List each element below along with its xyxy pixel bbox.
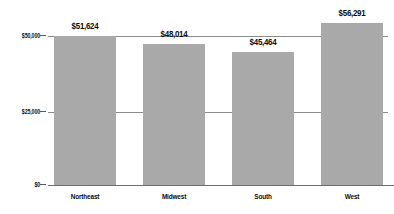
bar-west (321, 23, 383, 185)
axis-baseline (48, 185, 394, 186)
x-axis-label-midwest: Midwest (147, 192, 200, 201)
x-axis-label-west: West (325, 192, 378, 201)
bar-northeast (54, 36, 116, 185)
y-axis-tick-mark-0 (40, 184, 46, 185)
bar-midwest (143, 44, 205, 185)
bar-chart: $50,000 $25,000 $0 $51,624 $48,014 $45,4… (0, 0, 394, 214)
bar-south (232, 52, 294, 185)
plot-area: $51,624 $48,014 $45,464 $56,291 Northeas… (48, 0, 394, 214)
value-label-northeast: $51,624 (58, 21, 113, 31)
y-axis-tick-label-25000: $25,000 (2, 108, 40, 115)
y-axis-tick-label-50000: $50,000 (2, 32, 40, 39)
y-axis-tick-label-0: $0 (2, 181, 40, 188)
y-axis-tick-mark-25000 (40, 111, 46, 112)
value-label-midwest: $48,014 (147, 29, 202, 39)
value-label-west: $56,291 (325, 8, 380, 18)
x-axis-label-south: South (236, 192, 289, 201)
x-axis-label-northeast: Northeast (58, 192, 111, 201)
value-label-south: $45,464 (236, 37, 291, 47)
y-axis-tick-mark-50000 (40, 35, 46, 36)
